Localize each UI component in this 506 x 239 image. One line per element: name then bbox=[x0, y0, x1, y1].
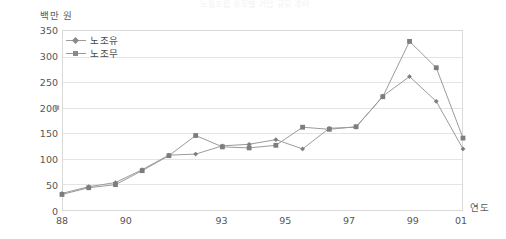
series-overlay bbox=[0, 0, 506, 239]
series-markers-union bbox=[60, 74, 466, 196]
series-line-union bbox=[62, 77, 463, 194]
chart-container: 노동조합 유무별 기업 규모 추이 백만 원 350 300 250 200 1… bbox=[0, 0, 506, 239]
series-markers-nonunion bbox=[60, 39, 466, 197]
stray-marker bbox=[55, 105, 59, 109]
series-line-nonunion bbox=[62, 41, 463, 194]
